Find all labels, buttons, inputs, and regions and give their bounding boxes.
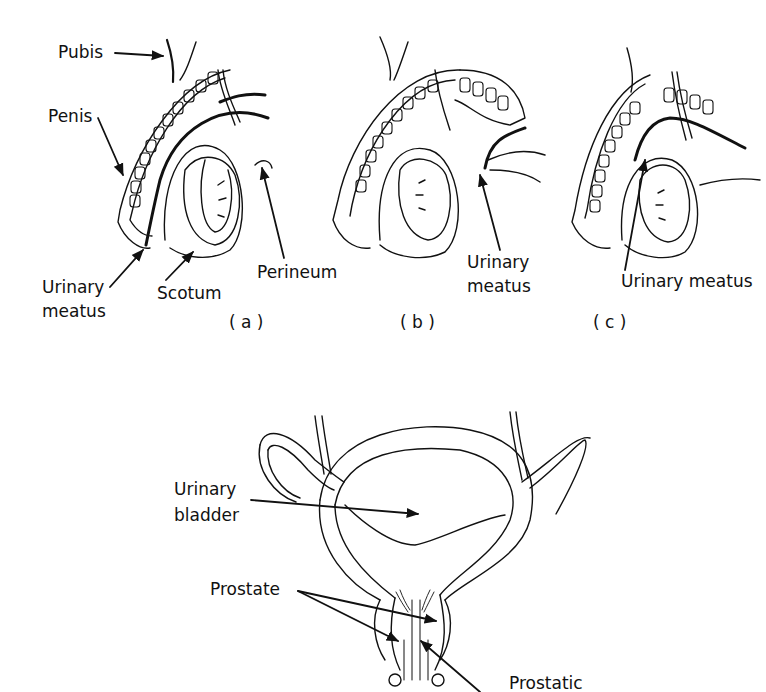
label-urinary-bladder-line2: bladder: [174, 505, 239, 525]
label-urinary-meatus-a-line1: Urinary: [42, 277, 104, 297]
label-urinary-meatus-b-line1: Urinary: [467, 252, 529, 272]
label-urinary-meatus-a-line2: meatus: [42, 301, 106, 321]
panel-a-leader-lines: [98, 53, 284, 287]
caption-a: ( a ): [229, 312, 264, 332]
bladder-leader-lines: [251, 500, 480, 692]
panel-c-drawing: [572, 48, 760, 258]
label-perineum: Perineum: [257, 262, 337, 282]
label-urinary-meatus-c: Urinary meatus: [621, 271, 753, 291]
label-urinary-bladder-line1: Urinary: [174, 479, 236, 499]
caption-b: ( b ): [400, 312, 435, 332]
label-scrotum: Scotum: [157, 283, 222, 303]
panel-b-drawing: [333, 37, 545, 258]
label-prostate: Prostate: [210, 579, 280, 599]
label-prostatic: Prostatic: [509, 673, 583, 692]
label-pubis: Pubis: [58, 42, 103, 62]
panel-a-drawing: [118, 40, 272, 257]
caption-c: ( c ): [593, 312, 626, 332]
label-urinary-meatus-b-line2: meatus: [467, 276, 531, 296]
panel-b-leader-lines: [480, 175, 500, 250]
anatomy-line-art: [0, 0, 766, 692]
label-penis: Penis: [48, 106, 92, 126]
